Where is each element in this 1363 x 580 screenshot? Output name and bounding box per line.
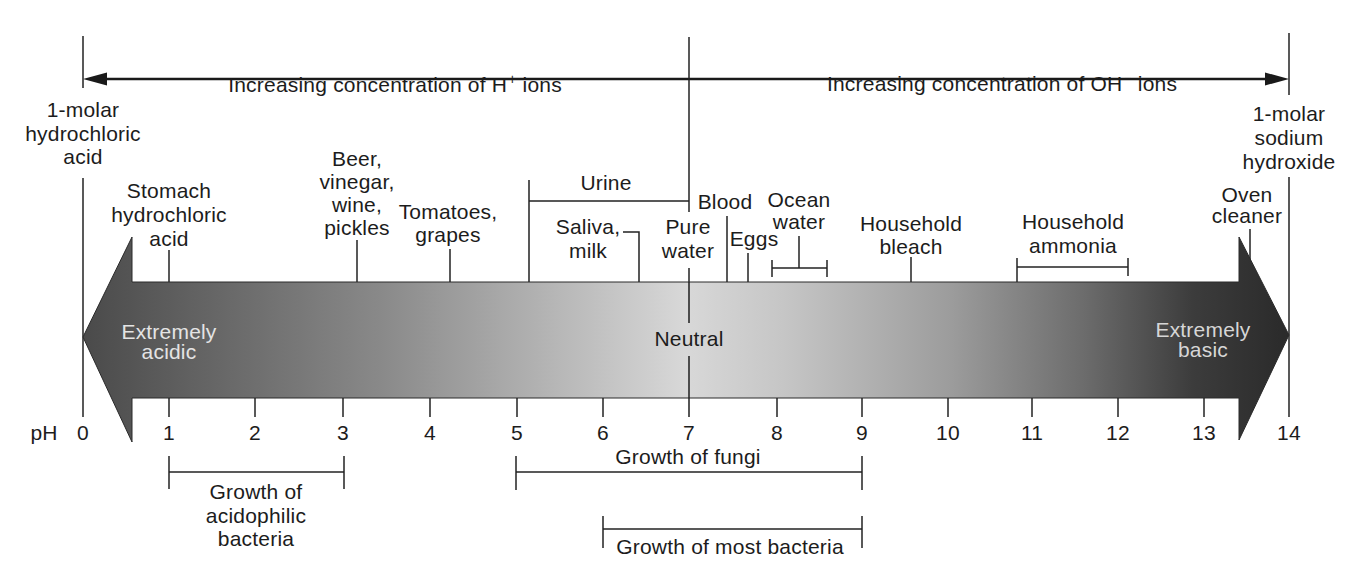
substance-pure-water: Pure water bbox=[662, 215, 714, 263]
ph-tick-label: 13 bbox=[1192, 421, 1216, 444]
substance-household-ammonia: Household ammonia bbox=[1022, 210, 1124, 258]
ph-tick-label: 4 bbox=[424, 421, 436, 444]
growth-fungi-label: Growth of fungi bbox=[615, 445, 760, 468]
ph-tick-label: 0 bbox=[77, 421, 89, 444]
ph-tick-label: 3 bbox=[337, 421, 349, 444]
tick-saliva bbox=[623, 232, 639, 282]
growth-acidophilic-bacteria-label: Growth of acidophilic bacteria bbox=[206, 480, 306, 551]
ph-tick-label: 2 bbox=[249, 421, 261, 444]
growth-most-bacteria-label: Growth of most bacteria bbox=[616, 535, 844, 558]
endpoint-sodium-hydroxide: 1-molar sodium hydroxide bbox=[1243, 102, 1336, 174]
arrowhead-left-icon bbox=[83, 73, 107, 86]
substance-ocean-water: Ocean water bbox=[768, 189, 831, 233]
ph-tick-label: 9 bbox=[856, 421, 868, 444]
band-label-extremely-acidic: Extremely acidic bbox=[121, 322, 216, 362]
substance-saliva-milk: Saliva, milk bbox=[556, 215, 620, 262]
substance-urine: Urine bbox=[580, 171, 631, 194]
substance-stomach-acid: Stomach hydrochloric acid bbox=[111, 179, 227, 251]
ph-tick-label: 6 bbox=[597, 421, 609, 444]
substance-beer-vinegar: Beer, vinegar, wine, pickles bbox=[319, 147, 394, 239]
arrowhead-right-icon bbox=[1265, 73, 1289, 86]
acid-label-suffix: ions bbox=[517, 73, 562, 96]
ph-tick-label: 5 bbox=[511, 421, 523, 444]
endpoint-hydrochloric-acid: 1-molar hydrochloric acid bbox=[25, 98, 141, 169]
substance-oven-cleaner: Oven cleaner bbox=[1212, 184, 1282, 226]
bracket-ammonia bbox=[1017, 258, 1128, 282]
h-plus-superscript: + bbox=[508, 71, 516, 87]
substance-tomatoes: Tomatoes, grapes bbox=[399, 201, 498, 246]
ph-tick-label: 1 bbox=[163, 421, 175, 444]
base-label-suffix: ions bbox=[1132, 72, 1177, 95]
ph-axis-label: pH bbox=[30, 421, 57, 444]
acid-label-text: Increasing concentration of H bbox=[228, 73, 507, 96]
oh-minus-superscript: − bbox=[1123, 70, 1131, 86]
band-label-neutral: Neutral bbox=[654, 327, 723, 350]
acid-concentration-label: Increasing concentration of H+ ions bbox=[204, 50, 562, 122]
substance-household-bleach: Household bleach bbox=[860, 213, 962, 258]
band-label-extremely-basic: Extremely basic bbox=[1155, 320, 1250, 360]
bracket-ocean-water bbox=[772, 236, 827, 277]
ph-tick-label: 12 bbox=[1106, 421, 1130, 444]
base-label-text: Increasing concentration of OH bbox=[827, 72, 1123, 95]
ph-ticks bbox=[169, 398, 1204, 417]
ph-tick-label: 14 bbox=[1277, 421, 1301, 444]
base-concentration-label: Increasing concentration of OH− ions bbox=[803, 49, 1177, 121]
substance-blood: Blood bbox=[698, 190, 753, 213]
ph-tick-label: 7 bbox=[683, 421, 695, 444]
ph-scale-diagram: Increasing concentration of H+ ions Incr… bbox=[0, 0, 1363, 580]
ph-tick-label: 8 bbox=[771, 421, 783, 444]
ph-tick-label: 11 bbox=[1021, 421, 1043, 444]
ph-tick-label: 10 bbox=[936, 421, 960, 444]
